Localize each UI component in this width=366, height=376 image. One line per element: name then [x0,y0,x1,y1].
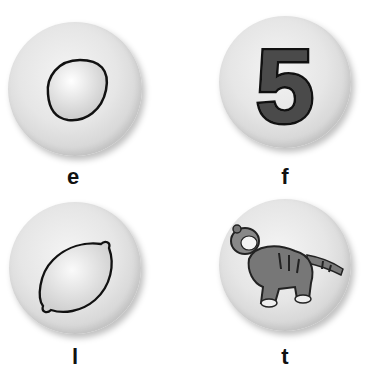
five-icon: 5 5 [219,16,351,148]
tiger-icon [219,199,351,331]
picture-disc-egg [8,22,142,156]
letter-label-l: l [55,344,95,370]
lemon-icon [9,202,141,334]
picture-disc-tiger [219,199,351,331]
egg-icon [8,22,142,156]
svg-text:5: 5 [256,28,314,144]
letter-label-f: f [265,164,305,190]
letter-label-e: e [53,164,93,190]
picture-disc-lemon [9,202,141,334]
picture-disc-five: 5 5 [219,16,351,148]
letter-label-t: t [265,344,305,370]
